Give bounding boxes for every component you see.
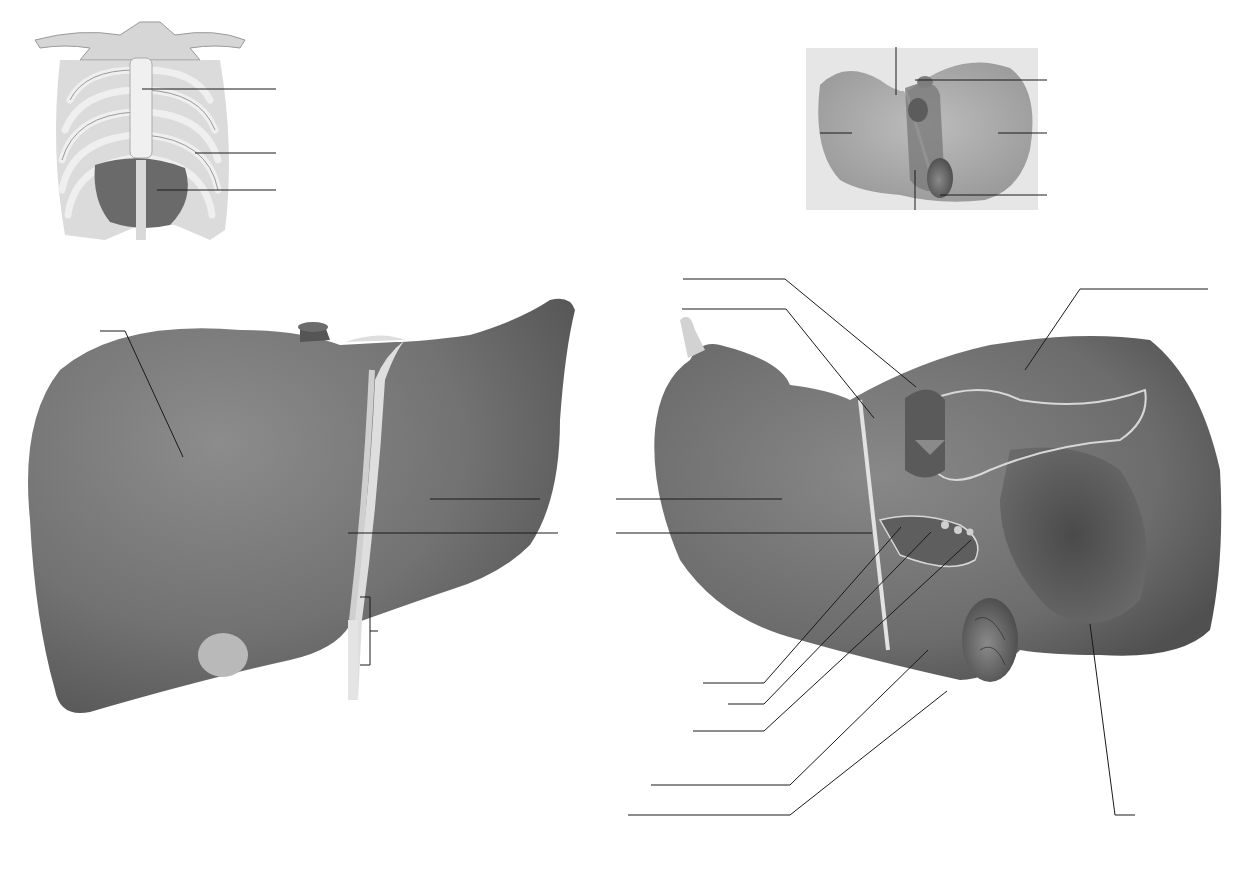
liver-anterior-view	[28, 299, 575, 713]
sternum-shape	[130, 58, 152, 158]
round-ligament-shape	[348, 620, 358, 700]
gallbladder-tip	[198, 633, 248, 677]
rib-cage-illustration	[35, 22, 245, 240]
inset-inferior-liver	[806, 48, 1038, 210]
gallbladder-b	[962, 598, 1018, 682]
liver-anatomy-illustration	[0, 0, 1238, 882]
inset-gallbladder	[927, 158, 953, 198]
vena-cava-shape	[905, 389, 945, 477]
